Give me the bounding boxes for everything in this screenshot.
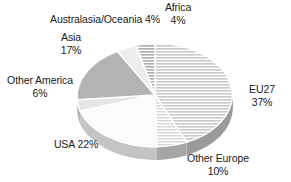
label-asia-name: Asia — [43, 31, 99, 44]
label-asia: Asia 17% — [43, 31, 99, 56]
label-eu27-name: EU27 — [237, 83, 287, 96]
pie-chart-figure: Australasia/Oceania 4% Africa 4% Asia 17… — [0, 0, 291, 182]
label-other-america-value: 6% — [2, 87, 78, 100]
label-africa-value: 4% — [151, 14, 205, 27]
label-eu27: EU27 37% — [237, 83, 287, 108]
label-eu27-value: 37% — [237, 96, 287, 109]
pie-top-face — [77, 43, 232, 147]
label-africa: Africa 4% — [151, 1, 205, 26]
label-other-europe-value: 10% — [176, 165, 260, 178]
label-usa-text: USA 22% — [54, 138, 98, 150]
label-other-america-name: Other America — [2, 74, 78, 87]
label-africa-name: Africa — [151, 1, 205, 14]
label-usa: USA 22% — [45, 138, 107, 151]
label-other-america: Other America 6% — [2, 74, 78, 99]
label-other-europe: Other Europe 10% — [176, 152, 260, 177]
label-australasia-oceania-text: Australasia/Oceania 4% — [50, 13, 160, 25]
label-asia-value: 17% — [43, 44, 99, 57]
label-other-europe-name: Other Europe — [176, 152, 260, 165]
